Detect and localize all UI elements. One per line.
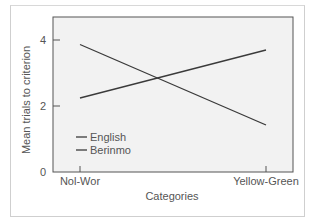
ytick-label-2: 2 [40, 100, 46, 112]
legend-label-berinmo: Berinmo [90, 144, 131, 156]
ytick-label-4: 4 [40, 34, 46, 46]
y-axis-title: Mean trials to criterion [20, 46, 32, 154]
xtick-label-yellow-green: Yellow-Green [233, 175, 299, 187]
xtick-label-nol-wor: Nol-Wor [60, 175, 100, 187]
x-axis-title: Categories [145, 190, 199, 202]
legend-label-english: English [90, 131, 126, 143]
plot-area [53, 17, 293, 172]
ytick-label-0: 0 [40, 166, 46, 178]
line-chart: 4 2 0 Nol-Wor Yellow-Green Categories Me… [0, 0, 312, 223]
